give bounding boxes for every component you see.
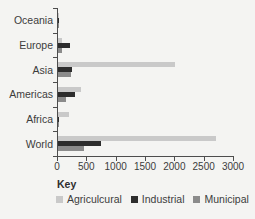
y-axis-line <box>57 8 58 157</box>
legend-swatch-municipal <box>193 196 200 203</box>
y-axis-tick <box>53 57 57 58</box>
bar-world-municipal <box>58 146 84 151</box>
category-label-europe: Europe <box>0 39 53 51</box>
legend-label-industrial: Industrial <box>142 193 185 205</box>
legend-item-agriculcural: Agriculcural <box>56 193 122 205</box>
plot-area: OceaniaEuropeAsiaAmericasAfricaWorld 050… <box>0 0 255 176</box>
x-axis-tick-label: 3000 <box>216 161 250 172</box>
legend-item-municipal: Municipal <box>193 193 248 205</box>
y-axis-tick <box>53 131 57 132</box>
legend-label-municipal: Municipal <box>204 193 248 205</box>
bar-chart: OceaniaEuropeAsiaAmericasAfricaWorld 050… <box>0 0 255 219</box>
bar-europe-municipal <box>58 48 62 53</box>
y-axis-tick <box>53 82 57 83</box>
legend-swatch-agriculcural <box>56 196 63 203</box>
category-label-americas: Americas <box>0 88 53 100</box>
category-label-asia: Asia <box>0 64 53 76</box>
y-axis-tick <box>53 8 57 9</box>
y-axis-tick <box>53 107 57 108</box>
category-label-world: World <box>0 138 53 150</box>
y-axis-tick <box>53 33 57 34</box>
bar-asia-municipal <box>58 72 71 77</box>
bar-africa-agriculcural <box>58 112 69 117</box>
legend-swatch-industrial <box>131 196 138 203</box>
legend-title: Key <box>57 178 76 190</box>
legend-label-agriculcural: Agriculcural <box>67 193 122 205</box>
category-label-africa: Africa <box>0 113 53 125</box>
bar-africa-municipal <box>58 122 59 127</box>
legend: AgriculcuralIndustrialMunicipal <box>56 193 249 205</box>
legend-item-industrial: Industrial <box>131 193 185 205</box>
bar-americas-municipal <box>58 97 66 102</box>
category-label-oceania: Oceania <box>0 14 53 26</box>
bar-asia-agriculcural <box>58 62 175 67</box>
